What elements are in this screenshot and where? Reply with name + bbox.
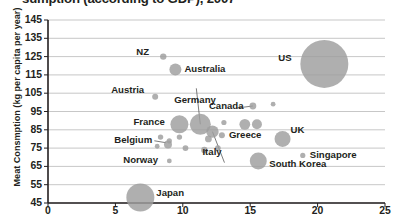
point-label-norway: Norway xyxy=(123,155,158,165)
bubble-greece xyxy=(219,132,225,138)
bubble-unlabeled xyxy=(271,102,276,107)
bubble-canada xyxy=(249,103,256,110)
bubble-australia xyxy=(169,63,181,75)
x-tick-label: 10 xyxy=(168,206,198,216)
bubble-unlabeled xyxy=(177,134,182,139)
point-label-germany: Germany xyxy=(174,95,216,105)
point-label-us: US xyxy=(278,53,291,63)
bubble-uk xyxy=(275,131,291,147)
bubble-south-korea xyxy=(250,152,267,169)
point-label-austria: Austria xyxy=(111,85,144,95)
plot-area xyxy=(0,0,393,222)
bubble-norway xyxy=(167,159,172,164)
bubble-france xyxy=(170,115,188,133)
bubble-belgium xyxy=(167,138,172,143)
point-label-belgium: Belgium xyxy=(114,135,152,145)
point-label-italy: Italy xyxy=(202,147,221,157)
bubble-chart: sumption (according to GDP), 2007 Meat C… xyxy=(0,0,393,222)
point-label-nz: NZ xyxy=(136,47,149,57)
x-tick-label: 20 xyxy=(303,206,333,216)
x-tick-label: 15 xyxy=(235,206,265,216)
x-tick-label: 0 xyxy=(33,206,63,216)
point-label-greece: Greece xyxy=(229,130,262,140)
bubble-nz xyxy=(160,53,166,59)
x-tick-label: 5 xyxy=(100,206,130,216)
bubble-us xyxy=(300,40,348,88)
bubble-unlabeled xyxy=(155,144,160,149)
point-label-south-korea: South Korea xyxy=(269,159,326,169)
x-tick-label: 25 xyxy=(370,206,393,216)
point-label-uk: UK xyxy=(291,125,305,135)
bubble-italy xyxy=(206,125,218,137)
bubble-austria xyxy=(152,94,158,100)
point-label-japan: Japan xyxy=(156,188,184,198)
point-label-australia: Australia xyxy=(184,64,225,74)
bubble-unlabeled xyxy=(158,134,163,139)
point-label-france: France xyxy=(133,117,164,127)
bubble-unlabeled xyxy=(183,145,189,151)
bubble-unlabeled xyxy=(252,119,262,129)
bubble-unlabeled xyxy=(221,120,226,125)
bubble-japan xyxy=(126,184,154,212)
bubble-unlabeled xyxy=(239,119,250,130)
